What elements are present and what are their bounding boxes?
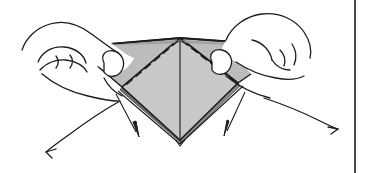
- right-index-finger: [211, 50, 232, 75]
- right-forearm-lower-edge: [264, 98, 338, 129]
- left-forearm-lower-edge: [46, 101, 120, 152]
- left-index-finger: [103, 51, 124, 77]
- origami-figure-panel: Origami folding step: hands holding fold…: [0, 0, 370, 173]
- origami-illustration: [0, 0, 370, 173]
- left-thumb-contour: [42, 74, 118, 101]
- right-forearm-tip-hatch: [328, 127, 338, 134]
